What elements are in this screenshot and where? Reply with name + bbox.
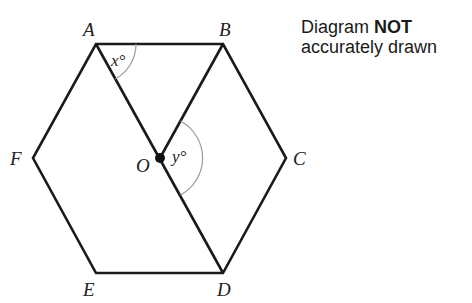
center-label-O: O	[136, 155, 150, 176]
angle-label-y: y°	[170, 147, 187, 166]
vertex-label-A: A	[81, 19, 95, 40]
vertex-label-C: C	[293, 148, 306, 169]
vertex-label-B: B	[219, 19, 231, 40]
vertex-label-D: D	[216, 279, 231, 300]
note-line-1: Diagram NOT	[301, 17, 437, 37]
angle-label-x: x°	[110, 51, 126, 70]
vertex-label-E: E	[82, 279, 95, 300]
note-prefix: Diagram	[301, 17, 374, 37]
note-line-2: accurately drawn	[301, 37, 437, 57]
center-point-O	[155, 153, 165, 163]
note-emphasis: NOT	[374, 17, 412, 37]
vertex-label-F: F	[9, 148, 22, 169]
not-to-scale-note: Diagram NOT accurately drawn	[301, 17, 437, 57]
segment-OB	[160, 44, 223, 158]
